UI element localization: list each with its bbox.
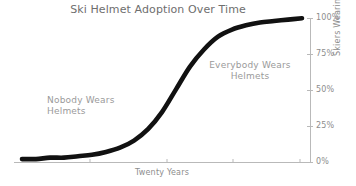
annotation-everybody-wears-helmets: Everybody Wears Helmets — [196, 60, 304, 82]
y-tick-label-0: 0% — [316, 157, 329, 166]
x-axis-label: Twenty Years — [14, 168, 310, 177]
y-tick-label-25: 25% — [316, 121, 334, 130]
y-axis-label: Skiers Wearing Helmets — [333, 0, 342, 56]
y-tick-label-75: 75% — [316, 49, 334, 58]
y-tick-label-50: 50% — [316, 85, 334, 94]
chart-plot-area — [0, 0, 356, 186]
adoption-curve-line — [22, 18, 302, 159]
chart-figure: Ski Helmet Adoption Over Time Nobody Wea… — [0, 0, 356, 186]
annotation-nobody-wears-helmets: Nobody Wears Helmets — [47, 95, 115, 117]
y-tick-label-100: 100% — [316, 13, 340, 22]
